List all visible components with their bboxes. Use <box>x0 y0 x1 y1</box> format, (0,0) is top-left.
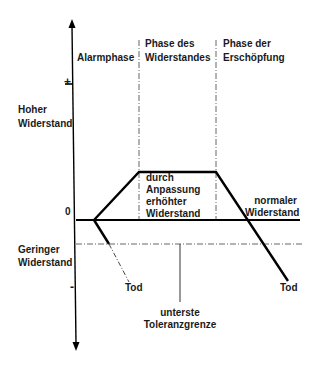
stress-resistance-diagram: + 0 - Hoher Widerstand Geringer Widersta… <box>0 0 316 365</box>
plus-label: + <box>64 76 71 88</box>
zero-label: 0 <box>65 206 71 218</box>
tolerance-limit-label: unterste Toleranzgrenze <box>140 307 220 331</box>
death-early-label: Tod <box>125 282 143 294</box>
arrow-down-icon <box>73 342 80 351</box>
normal-resistance-label: normaler Widerstand <box>245 195 297 219</box>
arrow-up-icon <box>69 19 76 28</box>
low-resistance-label: Geringer Widerstand <box>18 243 72 269</box>
y-axis-line <box>72 26 76 344</box>
early-death-branch-dashed <box>109 244 129 282</box>
death-late-label: Tod <box>280 282 298 294</box>
phase-alarm-label: Alarmphase <box>77 52 134 64</box>
phase-resistance-label: Phase des Widerstandes <box>145 37 210 65</box>
high-resistance-label: Hoher Widerstand <box>18 103 72 131</box>
early-death-branch-solid <box>94 220 109 244</box>
adaptation-label: durch Anpassung erhöhter Widerstand <box>146 172 200 220</box>
minus-label: - <box>70 281 74 293</box>
phase-exhaustion-label: Phase der Erschöpfung <box>223 37 285 65</box>
